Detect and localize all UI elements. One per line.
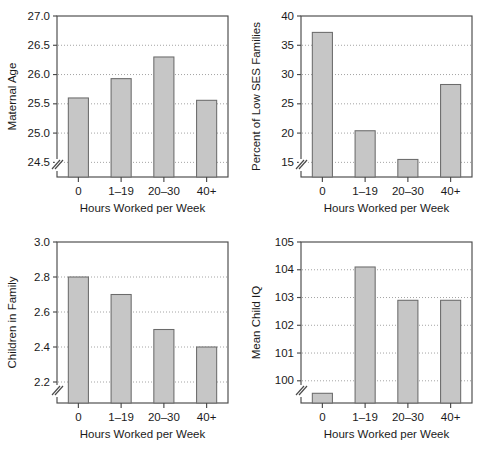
y-tick-label: 30 xyxy=(281,68,294,80)
y-tick-label: 100 xyxy=(275,374,294,386)
y-tick-label: 26.5 xyxy=(28,39,50,51)
bar xyxy=(111,79,131,177)
x-tick-label: 20–30 xyxy=(148,411,180,423)
y-tick-label: 105 xyxy=(275,236,294,248)
x-axis-title: Hours Worked per Week xyxy=(80,202,206,214)
chart-svg: 15202530354001–1920–3040+Hours Worked pe… xyxy=(244,0,488,226)
y-tick-label: 20 xyxy=(281,127,294,139)
chart-panel-maternal-age: 24.525.025.526.026.527.001–1920–3040+Hou… xyxy=(0,0,244,226)
x-tick-label: 20–30 xyxy=(392,411,424,423)
bar xyxy=(197,100,217,177)
y-tick-label: 2.4 xyxy=(34,341,51,353)
y-tick-label: 40 xyxy=(281,10,294,22)
y-tick-label: 26.0 xyxy=(28,68,50,80)
y-tick-label: 101 xyxy=(275,347,294,359)
x-axis-title: Hours Worked per Week xyxy=(324,202,450,214)
y-tick-label: 35 xyxy=(281,39,294,51)
y-tick-label: 25.0 xyxy=(28,127,50,139)
x-tick-label: 0 xyxy=(75,185,81,197)
chart-panel-children-in-family: 2.22.42.62.83.001–1920–3040+Hours Worked… xyxy=(0,226,244,452)
bar xyxy=(111,295,131,404)
x-tick-label: 20–30 xyxy=(392,185,424,197)
bar xyxy=(441,84,461,177)
bar xyxy=(154,57,174,177)
y-tick-label: 3.0 xyxy=(34,236,50,248)
y-tick-label: 103 xyxy=(275,291,294,303)
bar xyxy=(355,131,375,177)
x-tick-label: 20–30 xyxy=(148,185,180,197)
y-axis-title: Children in Family xyxy=(6,276,18,368)
x-tick-label: 0 xyxy=(319,411,325,423)
chart-panel-mean-child-iq: 10010110210310410501–1920–3040+Hours Wor… xyxy=(244,226,488,452)
y-tick-label: 25.5 xyxy=(28,97,50,109)
x-tick-label: 40+ xyxy=(197,185,217,197)
x-tick-label: 40+ xyxy=(197,411,217,423)
x-tick-label: 1–19 xyxy=(108,411,134,423)
chart-svg: 2.22.42.62.83.001–1920–3040+Hours Worked… xyxy=(0,226,244,452)
bar xyxy=(441,300,461,403)
x-axis-title: Hours Worked per Week xyxy=(324,428,450,440)
chart-svg: 24.525.025.526.026.527.001–1920–3040+Hou… xyxy=(0,0,244,226)
y-tick-label: 27.0 xyxy=(28,10,50,22)
bar xyxy=(68,277,88,403)
figure-bar-chart-grid: 24.525.025.526.026.527.001–1920–3040+Hou… xyxy=(0,0,488,452)
y-tick-label: 2.2 xyxy=(34,376,50,388)
y-axis-title: Percent of Low SES Families xyxy=(250,22,262,171)
bar xyxy=(68,98,88,177)
x-tick-label: 1–19 xyxy=(108,185,134,197)
y-axis-title: Maternal Age xyxy=(6,63,18,131)
x-tick-label: 0 xyxy=(319,185,325,197)
chart-panel-percent-low-ses: 15202530354001–1920–3040+Hours Worked pe… xyxy=(244,0,488,226)
y-tick-label: 25 xyxy=(281,97,294,109)
x-tick-label: 1–19 xyxy=(352,185,378,197)
bar xyxy=(355,267,375,403)
bar xyxy=(312,32,332,177)
chart-svg: 10010110210310410501–1920–3040+Hours Wor… xyxy=(244,226,488,452)
x-tick-label: 1–19 xyxy=(352,411,378,423)
y-tick-label: 2.8 xyxy=(34,271,50,283)
x-tick-label: 40+ xyxy=(441,185,461,197)
x-axis-title: Hours Worked per Week xyxy=(80,428,206,440)
y-tick-label: 2.6 xyxy=(34,306,50,318)
y-axis-title: Mean Child IQ xyxy=(250,286,262,360)
bar xyxy=(398,300,418,403)
bar xyxy=(398,159,418,177)
y-tick-label: 102 xyxy=(275,319,294,331)
y-tick-label: 104 xyxy=(275,263,295,275)
bar xyxy=(312,393,332,403)
bar xyxy=(154,330,174,404)
x-tick-label: 40+ xyxy=(441,411,461,423)
bar xyxy=(197,347,217,403)
y-tick-label: 24.5 xyxy=(28,156,50,168)
x-tick-label: 0 xyxy=(75,411,81,423)
y-tick-label: 15 xyxy=(281,156,294,168)
